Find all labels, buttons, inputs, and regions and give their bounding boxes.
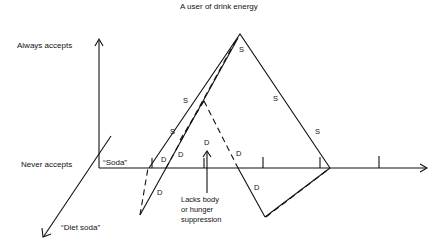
marker-d: D	[161, 156, 166, 164]
marker-s: S	[183, 97, 188, 105]
z-axis-label: “Diet soda”	[61, 224, 100, 232]
marker-d: D	[157, 189, 162, 197]
marker-s: S	[239, 46, 244, 54]
y-axis-bottom-label: Never accepts	[21, 161, 72, 169]
z-axis	[44, 136, 111, 236]
annotation-text: Lacks body or hunger suppression	[181, 195, 221, 225]
annotation-line-3: suppression	[181, 215, 221, 225]
annotation-line-1: Lacks body	[181, 195, 221, 205]
annotation-line-2: or hunger	[181, 205, 221, 215]
x-axis-label: “Soda”	[103, 159, 127, 167]
diagram-title: A user of drink energy	[180, 3, 258, 11]
marker-d: D	[178, 151, 183, 159]
y-axis-top-label: Always accepts	[17, 42, 72, 50]
marker-s: S	[315, 128, 320, 136]
soda-curve	[149, 34, 330, 168]
marker-d: D	[204, 139, 209, 147]
marker-s: S	[273, 95, 278, 103]
marker-s: S	[170, 128, 175, 136]
marker-d: D	[236, 150, 241, 158]
marker-d: D	[254, 184, 259, 192]
